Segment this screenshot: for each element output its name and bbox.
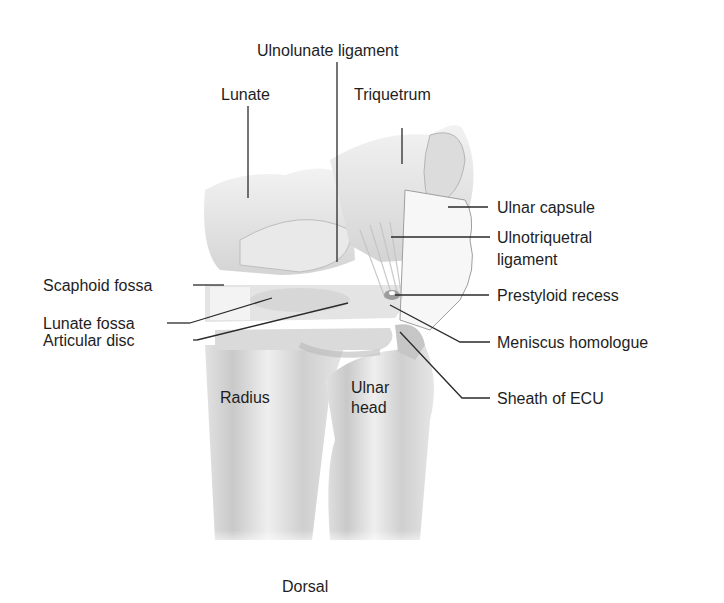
label-view-dorsal: Dorsal	[282, 577, 328, 596]
label-meniscus-homologue: Meniscus homologue	[497, 333, 648, 352]
label-articular-disc: Articular disc	[43, 331, 135, 350]
label-scaphoid-fossa: Scaphoid fossa	[43, 276, 152, 295]
label-ulnar-head-line2: head	[351, 398, 387, 417]
label-radius: Radius	[220, 388, 270, 407]
label-ulnar-head-line1: Ulnar	[351, 378, 389, 397]
label-ulnolunate-ligament: Ulnolunate ligament	[257, 41, 398, 60]
label-ulnotriquetral-ligament-line2: ligament	[497, 250, 557, 269]
label-ulnar-capsule: Ulnar capsule	[497, 198, 595, 217]
label-ulnotriquetral-ligament-line1: Ulnotriquetral	[497, 228, 592, 247]
label-lunate: Lunate	[221, 85, 270, 104]
wrist-anatomy-figure: Ulnolunate ligament Lunate Triquetrum Ul…	[0, 0, 724, 603]
label-prestyloid-recess: Prestyloid recess	[497, 286, 619, 305]
label-triquetrum: Triquetrum	[354, 85, 431, 104]
label-sheath-of-ecu: Sheath of ECU	[497, 389, 604, 408]
